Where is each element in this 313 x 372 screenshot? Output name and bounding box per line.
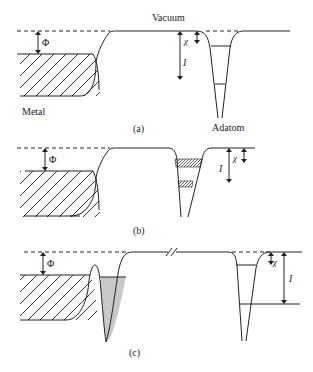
phi-label-b: Φ — [49, 154, 56, 165]
metal-label: Metal — [22, 106, 46, 117]
panel-b: Φ I χ (b) — [17, 148, 255, 237]
ionization-label-b: I — [218, 163, 223, 174]
chi-label-c: χ — [272, 257, 278, 267]
chi-label-b: χ — [232, 153, 238, 163]
ionization-label-c: I — [288, 273, 293, 284]
caption-a: (a) — [133, 123, 144, 135]
adatom-label: Adatom — [212, 122, 244, 133]
phi-label-c: Φ — [47, 258, 54, 269]
caption-b: (b) — [133, 225, 145, 237]
caption-c: (c) — [129, 347, 140, 359]
energy-level-diagram: Vacuum Φ I χ Metal Adatom — [0, 0, 313, 372]
phi-label-a: Φ — [42, 37, 49, 48]
ionization-label-a: I — [182, 57, 187, 68]
chi-label-a: χ — [183, 36, 189, 46]
vacuum-label: Vacuum — [152, 12, 185, 23]
panel-c: Φ χ I (c) — [17, 248, 302, 359]
panel-a: Vacuum Φ I χ Metal Adatom — [17, 12, 290, 135]
